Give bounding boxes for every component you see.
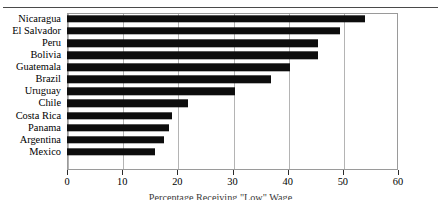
x-axis-tick	[343, 170, 344, 175]
bar	[67, 88, 235, 95]
x-axis-tick	[288, 170, 289, 175]
bar-row	[67, 73, 398, 85]
bar-chart-figure: Nicaragua El Salvador Peru Bolivia Guate…	[0, 0, 441, 200]
bar-row	[67, 134, 398, 146]
category-axis-labels: Nicaragua El Salvador Peru Bolivia Guate…	[0, 13, 64, 170]
category-label: Costa Rica	[0, 110, 64, 122]
bar-row	[67, 37, 398, 49]
bar-row	[67, 110, 398, 122]
x-axis-tick-label: 40	[282, 175, 292, 188]
x-axis-tick-labels: 0102030405060	[0, 175, 441, 189]
x-axis-tick-label: 60	[393, 175, 403, 188]
bar-row	[67, 85, 398, 97]
bar	[67, 27, 340, 34]
bar	[67, 15, 365, 22]
bar-row	[67, 61, 398, 73]
bar-row	[67, 13, 398, 25]
x-axis-tick	[122, 170, 123, 175]
bar	[67, 100, 188, 107]
bar	[67, 64, 290, 71]
x-axis-tick	[233, 170, 234, 175]
x-axis-tick-label: 20	[172, 175, 182, 188]
top-divider-rule	[3, 7, 438, 8]
bar	[67, 76, 271, 83]
category-label: Argentina	[0, 134, 64, 146]
x-axis-tick	[177, 170, 178, 175]
x-axis-tick-label: 50	[338, 175, 348, 188]
x-axis-tick	[67, 170, 68, 175]
bar-row	[67, 122, 398, 134]
bar	[67, 124, 169, 131]
category-label: El Salvador	[0, 25, 64, 37]
category-label: Peru	[0, 37, 64, 49]
bar	[67, 52, 318, 59]
x-axis-tick-label: 10	[117, 175, 127, 188]
bar	[67, 148, 155, 155]
bar-row	[67, 49, 398, 61]
x-axis-title: Percentage Receiving "Low" Wage	[149, 192, 292, 200]
category-label: Nicaragua	[0, 13, 64, 25]
category-label: Panama	[0, 122, 64, 134]
bar	[67, 136, 164, 143]
x-axis-title-clip: Percentage Receiving "Low" Wage	[0, 192, 441, 200]
x-axis-tick-label: 0	[64, 175, 69, 188]
bar-row	[67, 97, 398, 109]
category-label: Chile	[0, 97, 64, 109]
bar-series	[67, 13, 398, 170]
bar	[67, 39, 318, 46]
bar-row	[67, 146, 398, 158]
category-label: Bolivia	[0, 49, 64, 61]
bar	[67, 112, 172, 119]
category-label: Guatemala	[0, 61, 64, 73]
category-label: Mexico	[0, 146, 64, 158]
x-axis-tick-label: 30	[227, 175, 237, 188]
category-label: Brazil	[0, 73, 64, 85]
bar-row	[67, 25, 398, 37]
category-label: Uruguay	[0, 85, 64, 97]
x-axis-tick	[398, 170, 399, 175]
